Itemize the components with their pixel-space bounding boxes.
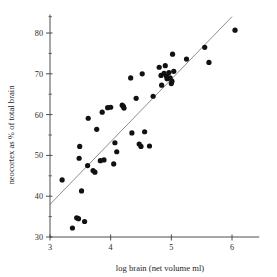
- y-tick-label: 80: [35, 29, 43, 38]
- data-point: [112, 140, 117, 145]
- data-point: [101, 157, 106, 162]
- data-point: [157, 65, 162, 70]
- data-point: [94, 127, 99, 132]
- data-points-group: [60, 28, 238, 231]
- data-point: [151, 94, 156, 99]
- data-point: [114, 149, 119, 154]
- data-point: [206, 60, 211, 65]
- data-point: [138, 144, 143, 149]
- x-tick-label: 3: [48, 243, 52, 252]
- data-point: [86, 116, 91, 121]
- x-tick-label: 5: [169, 243, 173, 252]
- x-tick-label: 4: [109, 243, 113, 252]
- axes-group: 304050607080 3456: [35, 15, 259, 252]
- data-point: [169, 79, 174, 84]
- data-point: [202, 45, 207, 50]
- y-tick-label: 60: [35, 111, 43, 120]
- y-tick-label: 70: [35, 70, 43, 79]
- data-point: [121, 105, 126, 110]
- data-point: [171, 69, 176, 74]
- data-point: [85, 163, 90, 168]
- x-axis-title: log brain (net volume ml): [116, 263, 204, 273]
- data-point: [170, 52, 175, 57]
- data-point: [76, 216, 81, 221]
- data-point: [60, 177, 65, 182]
- data-point: [159, 83, 164, 88]
- data-point: [134, 96, 139, 101]
- data-point: [108, 105, 113, 110]
- y-tick-label: 50: [35, 151, 43, 160]
- data-point: [184, 57, 189, 62]
- data-point: [70, 225, 75, 230]
- data-point: [147, 143, 152, 148]
- data-point: [77, 144, 82, 149]
- data-point: [140, 71, 145, 76]
- y-tick-label: 40: [35, 192, 43, 201]
- data-point: [100, 110, 105, 115]
- data-point: [79, 188, 84, 193]
- data-point: [129, 130, 134, 135]
- data-point: [142, 129, 147, 134]
- data-point: [232, 28, 237, 33]
- data-point: [77, 156, 82, 161]
- plot-canvas: 304050607080 3456 log brain (net volume …: [0, 0, 277, 277]
- data-point: [92, 170, 97, 175]
- data-point: [111, 161, 116, 166]
- scatter-plot-figure: 304050607080 3456 log brain (net volume …: [0, 0, 277, 277]
- y-tick-label: 30: [35, 233, 43, 242]
- data-point: [128, 75, 133, 80]
- data-point: [166, 70, 171, 75]
- data-point: [163, 63, 168, 68]
- x-tick-label: 6: [230, 243, 234, 252]
- y-axis-title: neocortex as % of total brain: [6, 85, 16, 185]
- data-point: [82, 219, 87, 224]
